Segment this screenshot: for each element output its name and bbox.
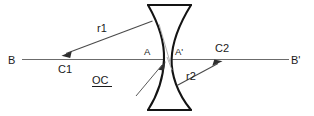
radius-r1-line bbox=[66, 21, 153, 54]
center-construction-marks bbox=[159, 24, 172, 70]
lens-diagram-canvas: B B' C1 C2 r1 r2 A A' OC bbox=[0, 0, 314, 116]
optical-center-label: OC bbox=[92, 74, 109, 86]
radius-r2-group bbox=[177, 59, 223, 85]
lens-right-concave-surface bbox=[172, 5, 191, 110]
lens-diagram-figure: B B' C1 C2 r1 r2 A A' OC bbox=[0, 0, 314, 116]
radius-r2-arrowhead bbox=[212, 59, 222, 65]
axis-label-b-prime: B' bbox=[291, 54, 300, 66]
vertex-label-a: A bbox=[144, 46, 151, 57]
optical-center-leader-arrowhead bbox=[158, 61, 165, 70]
radius-r1-arrowhead bbox=[62, 51, 72, 58]
center-curvature-label-c1: C1 bbox=[58, 63, 72, 75]
radius-label-r2: r2 bbox=[186, 70, 196, 82]
radius-r2-line bbox=[177, 64, 218, 86]
radius-label-r1: r1 bbox=[97, 22, 107, 34]
lens-left-concave-surface bbox=[148, 5, 164, 110]
radius-r1-group bbox=[62, 21, 153, 58]
axis-label-b: B bbox=[8, 54, 15, 66]
biconcave-lens bbox=[148, 5, 191, 110]
vertex-label-a-prime: A' bbox=[175, 46, 183, 57]
center-curvature-label-c2: C2 bbox=[215, 42, 229, 54]
